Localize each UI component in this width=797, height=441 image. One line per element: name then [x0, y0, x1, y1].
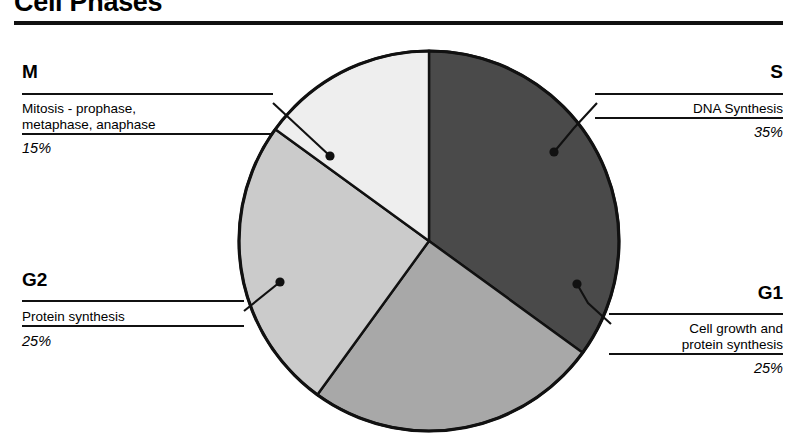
- leader-dot-m: [325, 151, 334, 160]
- leader-dot-g2: [275, 277, 284, 286]
- pie-slice-s: [429, 51, 619, 353]
- callout-s-code: S: [595, 62, 783, 81]
- callout-m-rule-top: [22, 93, 273, 95]
- pie-slice-m: [275, 51, 429, 241]
- callout-s-rule-bottom: [595, 117, 783, 119]
- callout-s-rule-top: [595, 93, 783, 95]
- leader-dot-s: [549, 147, 558, 156]
- callout-g2-rule-top: [22, 300, 244, 302]
- pie-slice-g1: [317, 241, 582, 431]
- callout-g2-rule-bottom: [22, 325, 244, 327]
- callout-g1: G1 Cell growth and protein synthesis 25%: [609, 283, 783, 376]
- callout-s-description: DNA Synthesis: [595, 101, 783, 117]
- callout-m-rule-bottom: [22, 133, 273, 135]
- callout-g2-code: G2: [22, 270, 244, 289]
- callout-g1-rule-bottom: [609, 353, 783, 355]
- cell-phases-figure: Cell Phases M Mitosis - prophase, metap: [0, 0, 797, 441]
- callout-s: S DNA Synthesis 35%: [595, 62, 783, 140]
- callout-g2-description: Protein synthesis: [22, 309, 244, 325]
- title-divider: [14, 21, 783, 25]
- callout-s-percent: 35%: [595, 125, 783, 140]
- callout-m: M Mitosis - prophase, metaphase, anaphas…: [22, 62, 273, 156]
- leader-line-g1: [577, 284, 611, 324]
- callout-g1-percent: 25%: [609, 361, 783, 376]
- leader-line-m: [273, 103, 330, 156]
- callout-g1-code: G1: [609, 283, 783, 302]
- leader-dot-g1: [572, 279, 581, 288]
- callout-g2-percent: 25%: [22, 334, 244, 349]
- callout-m-description: Mitosis - prophase, metaphase, anaphase: [22, 101, 273, 133]
- page-title: Cell Phases: [14, 0, 162, 18]
- callout-g2: G2 Protein synthesis 25%: [22, 270, 244, 349]
- callout-m-code: M: [22, 62, 273, 81]
- pie-slice-g2: [239, 129, 429, 394]
- leader-line-g2: [244, 282, 280, 311]
- callout-g1-description: Cell growth and protein synthesis: [609, 321, 783, 353]
- leader-line-s: [554, 103, 597, 152]
- callout-g1-rule-top: [609, 313, 783, 315]
- pie-outline: [239, 51, 619, 431]
- callout-m-percent: 15%: [22, 141, 273, 156]
